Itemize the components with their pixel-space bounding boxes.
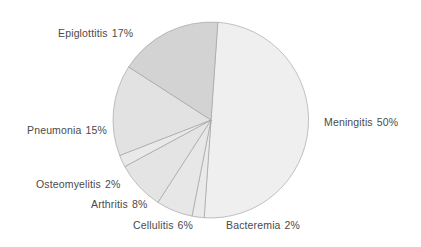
pie-label-percent: 17% (112, 27, 133, 39)
pie-chart-figure: Meningitis50%Bacteremia2%Cellulitis6%Art… (0, 0, 421, 247)
pie-label-name: Meningitis (324, 116, 373, 128)
pie-slices-group (113, 22, 309, 218)
pie-label-name: Cellulitis (133, 219, 174, 231)
pie-label-percent: 6% (178, 219, 193, 231)
pie-label-cellulitis: Cellulitis6% (133, 220, 193, 231)
pie-label-percent: 2% (105, 178, 120, 190)
pie-label-name: Osteomyelitis (36, 178, 101, 190)
pie-label-pneumonia: Pneumonia15% (27, 125, 107, 136)
pie-label-percent: 8% (132, 198, 147, 210)
pie-label-name: Epiglottitis (58, 27, 108, 39)
pie-label-name: Arthritis (91, 198, 128, 210)
pie-label-percent: 50% (377, 116, 398, 128)
pie-label-name: Bacteremia (226, 219, 281, 231)
pie-slice-meningitis (204, 22, 308, 218)
pie-label-epiglottitis: Epiglottitis17% (58, 28, 133, 39)
pie-label-arthritis: Arthritis8% (91, 199, 147, 210)
pie-label-meningitis: Meningitis50% (324, 117, 398, 128)
pie-label-percent: 15% (85, 124, 106, 136)
pie-label-name: Pneumonia (27, 124, 81, 136)
pie-label-percent: 2% (285, 219, 300, 231)
pie-label-osteomyelitis: Osteomyelitis2% (36, 179, 120, 190)
pie-label-bacteremia: Bacteremia2% (226, 220, 300, 231)
